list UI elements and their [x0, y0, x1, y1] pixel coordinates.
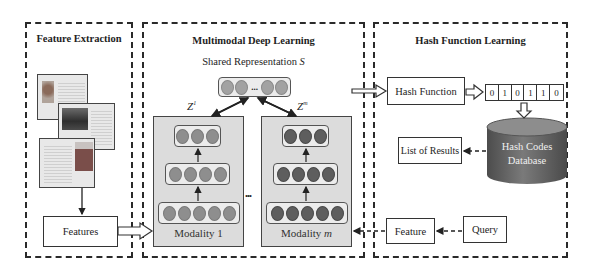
document-image [62, 108, 88, 130]
bit: 0 [550, 85, 563, 100]
node [275, 80, 288, 95]
node [221, 80, 234, 95]
hash-title: Hash Function Learning [373, 35, 568, 46]
node [331, 206, 344, 221]
modality-1-block: Modality 1 [153, 116, 244, 247]
binary-code: 0 1 0 1 1 0 [485, 84, 564, 101]
modality-1-label: Modality 1 [154, 227, 243, 239]
modalities-ellipsis: ... [245, 186, 251, 201]
node [277, 167, 290, 182]
node [314, 129, 327, 144]
bit: 1 [524, 85, 537, 100]
list-of-results-box: List of Results [398, 137, 462, 164]
node [163, 206, 176, 221]
modality-m-label: Modality m [262, 227, 351, 239]
node [193, 206, 206, 221]
node [284, 129, 297, 144]
node [261, 80, 274, 95]
node [286, 206, 299, 221]
modality-m-layer-2 [273, 163, 338, 185]
node [199, 167, 212, 182]
database-label: Hash Codes Database [487, 140, 567, 168]
bit: 0 [512, 85, 525, 100]
node [322, 167, 335, 182]
bit: 0 [486, 85, 499, 100]
document-image [42, 81, 54, 103]
modality-m-block: Modality m [261, 116, 352, 247]
modality-m-layer-1 [266, 202, 348, 224]
node [178, 206, 191, 221]
document-text [44, 144, 72, 184]
bit: 1 [537, 85, 550, 100]
hash-function-box: Hash Function [387, 77, 465, 105]
node [169, 167, 182, 182]
node [206, 129, 219, 144]
node [191, 129, 204, 144]
shared-label-text: Shared Representation [202, 56, 299, 67]
zm-label: Zm [297, 100, 307, 112]
node [223, 206, 236, 221]
node [307, 167, 320, 182]
multimodal-title: Multimodal Deep Learning [142, 35, 365, 46]
document-image [75, 142, 93, 171]
features-box: Features [43, 216, 118, 247]
node [301, 206, 314, 221]
node [292, 167, 305, 182]
node [214, 167, 227, 182]
query-box: Query [463, 216, 507, 243]
node [184, 167, 197, 182]
feature-box: Feature [386, 218, 435, 244]
modality-1-layer-2 [165, 163, 230, 185]
node [316, 206, 329, 221]
ellipsis: ... [251, 82, 258, 92]
modality-1-layer-3 [174, 125, 221, 147]
shared-representation-label: Shared Representation S [142, 56, 365, 67]
node [176, 129, 189, 144]
shared-representation-layer: ... [218, 77, 291, 97]
shared-symbol: S [300, 56, 305, 67]
z1-label: Z1 [187, 100, 196, 112]
feature-extraction-title: Feature Extraction [30, 33, 128, 44]
node [208, 206, 221, 221]
node [271, 206, 284, 221]
modality-1-layer-1 [158, 202, 240, 224]
bit: 1 [499, 85, 512, 100]
document-3 [39, 138, 95, 188]
node [235, 80, 248, 95]
modality-m-layer-3 [282, 125, 329, 147]
node [299, 129, 312, 144]
